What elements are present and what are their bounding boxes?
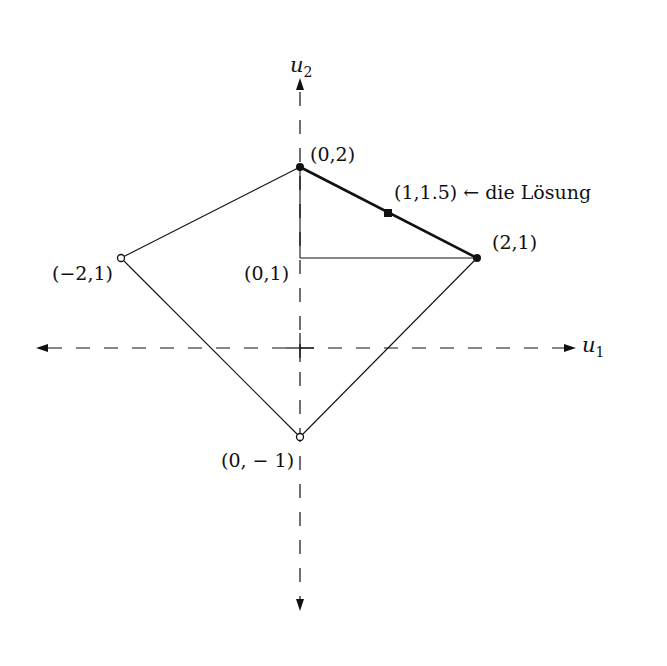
vertex-0-m1-open-dot xyxy=(297,434,304,441)
label-m2-1: (−2,1) xyxy=(52,262,113,284)
axes xyxy=(48,92,570,600)
label-2-1: (2,1) xyxy=(492,231,537,253)
arrow-left-icon xyxy=(36,344,48,352)
feasible-region xyxy=(121,167,477,437)
u2-axis-label: u2 xyxy=(290,53,312,80)
arrow-down-icon xyxy=(296,599,304,611)
u1-axis-label: u1 xyxy=(582,333,604,360)
diagram-canvas: u2 u1 (0,2) (2,1) (−2,1) (0, − 1) (0,1) … xyxy=(0,0,667,666)
label-0-2: (0,2) xyxy=(310,143,355,165)
solution-square-marker xyxy=(384,209,392,217)
label-0-m1: (0, − 1) xyxy=(221,449,294,471)
label-solution: (1,1.5) ← die Lösung xyxy=(394,181,591,203)
label-0-1: (0,1) xyxy=(244,262,289,284)
vertex-m2-1-open-dot xyxy=(118,255,125,262)
edge-m21-02 xyxy=(121,167,300,258)
vertex-2-1-dot xyxy=(473,254,481,262)
arrow-right-icon xyxy=(564,344,576,352)
vertex-0-2-dot xyxy=(296,163,304,171)
